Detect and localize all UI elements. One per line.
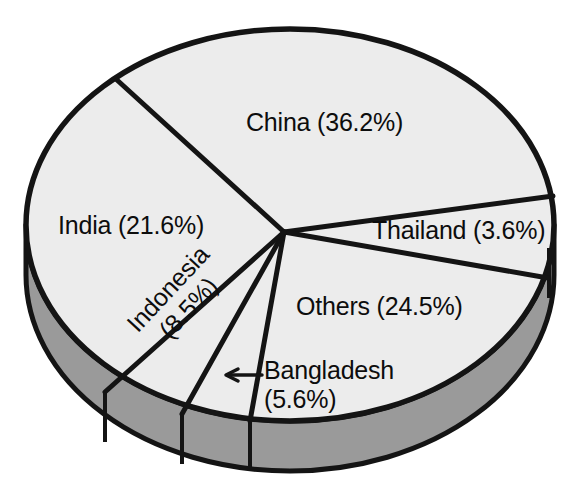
slice-label-thailand: Thailand (3.6%) — [372, 216, 545, 244]
slice-label-bangladesh-line2: (5.6%) — [264, 385, 394, 414]
slice-label-bangladesh: Bangladesh (5.6%) — [264, 356, 394, 414]
pie-chart-graphic — [0, 0, 579, 494]
slice-label-india: India (21.6%) — [58, 211, 204, 239]
slice-label-bangladesh-line1: Bangladesh — [264, 356, 394, 385]
slice-label-china: China (36.2%) — [246, 108, 403, 136]
slice-label-others: Others (24.5%) — [296, 292, 463, 320]
pie-chart: China (36.2%) India (21.6%) Thailand (3.… — [0, 0, 579, 494]
